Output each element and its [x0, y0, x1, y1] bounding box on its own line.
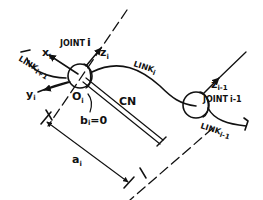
joint-i [68, 64, 92, 88]
link-length-label: ai [72, 153, 82, 168]
joint-i-minus-1-axis [130, 128, 213, 200]
link-i-minus-1-curve [208, 108, 246, 126]
link-i-minus-1-end-mark [244, 118, 248, 130]
z-i-minus-1-axis-extension [219, 52, 246, 78]
y-i-axis-arrow [44, 82, 70, 90]
y-i-label: yi [26, 88, 36, 102]
joint-i-minus-1-label: JOINTi-1 [202, 95, 242, 104]
offset-leader [88, 94, 92, 112]
x-i-label: xi [42, 46, 52, 61]
offset-label: bi=0 [80, 114, 107, 127]
link-i-plus-1-end-mark [21, 50, 30, 52]
x-i-axis-arrow [49, 55, 78, 74]
origin-i-label: Oi [72, 90, 84, 105]
z-i-minus-1-label: zi-1 [211, 78, 228, 92]
link-i-curve [92, 66, 196, 106]
z-i-axis-arrow [86, 48, 101, 66]
joint-i-label: JOINTi [59, 36, 91, 49]
common-normal-label: CN [119, 95, 136, 108]
common-normal-line [83, 78, 166, 146]
link-i-minus-1-label: LINKi-1 [199, 121, 232, 141]
dh-parameter-diagram: JOINTi xi yi zi Oi LINKi LINKi+1 LINKi-1… [0, 0, 263, 200]
z-i-label: zi [100, 46, 109, 61]
